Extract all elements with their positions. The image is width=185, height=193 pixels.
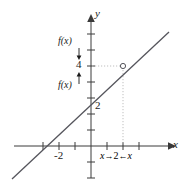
y-axis-arrowhead [87, 14, 95, 22]
open-circle-hole-marker [120, 63, 125, 68]
x-axis-label: x [173, 139, 178, 150]
limit-graph-figure: y x f(x) f(x) 4 2 -2 x→2←x [0, 0, 185, 193]
f-of-x-label-upper: f(x) [58, 36, 72, 46]
coordinate-plane-svg [0, 0, 185, 193]
f-of-x-label-lower: f(x) [58, 80, 72, 90]
arrow-up-icon [77, 72, 82, 84]
x-intercept-label: -2 [54, 150, 63, 161]
y-value-4-label: 4 [76, 59, 82, 70]
x-approach-right-label: x [127, 150, 131, 161]
x-approaches-two-annotation: x→2←x [100, 150, 132, 161]
y-intercept-label: 2 [95, 100, 101, 111]
y-axis-label: y [95, 8, 100, 19]
